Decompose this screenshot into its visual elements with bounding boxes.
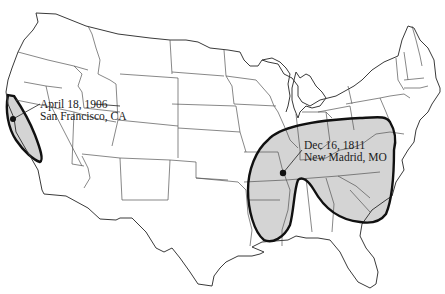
felt-area-san-francisco [7, 95, 42, 162]
wisconsin-shore [262, 58, 290, 112]
label-san-francisco: April 18, 1906 San Francisco, CA [40, 98, 127, 122]
epicenter-dot-new-madrid [280, 170, 286, 176]
event-date-new-madrid: Dec 16, 1811 [304, 139, 387, 151]
epicenter-dot-san-francisco [10, 116, 16, 122]
event-date-san-francisco: April 18, 1906 [40, 98, 127, 110]
event-location-san-francisco: San Francisco, CA [40, 110, 127, 122]
event-location-new-madrid: New Madrid, MO [304, 151, 387, 163]
michigan-outline [292, 72, 326, 118]
label-new-madrid: Dec 16, 1811 New Madrid, MO [304, 139, 387, 163]
